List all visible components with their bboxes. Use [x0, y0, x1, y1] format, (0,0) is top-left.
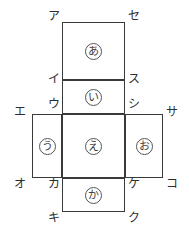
- net-face-label-left: う: [39, 138, 56, 155]
- net-vertex-label-sa: サ: [166, 106, 178, 118]
- net-vertex-label-u: ウ: [48, 98, 60, 110]
- net-face-label-center: え: [85, 138, 102, 155]
- net-vertex-label-ki: キ: [48, 212, 60, 224]
- net-vertex-label-e: エ: [14, 106, 26, 118]
- net-face-label-upper: い: [85, 89, 102, 106]
- net-vertex-label-ko: コ: [166, 178, 178, 190]
- cube-net-figure: あいうえおか アセイスウシエサオコカケキク: [0, 0, 189, 244]
- net-vertex-label-ku: ク: [128, 212, 140, 224]
- net-face-label-top: あ: [85, 43, 102, 60]
- net-face-label-right: お: [136, 138, 153, 155]
- net-vertex-label-shi: シ: [128, 98, 140, 110]
- net-face-label-bottom: か: [85, 187, 102, 204]
- net-vertex-label-se: セ: [128, 10, 140, 22]
- net-vertex-label-o: オ: [14, 178, 26, 190]
- net-vertex-label-ke: ケ: [128, 178, 140, 190]
- net-vertex-label-ka: カ: [48, 178, 60, 190]
- net-vertex-label-a: ア: [48, 10, 60, 22]
- net-vertex-label-su: ス: [128, 73, 140, 85]
- net-vertex-label-i: イ: [48, 73, 60, 85]
